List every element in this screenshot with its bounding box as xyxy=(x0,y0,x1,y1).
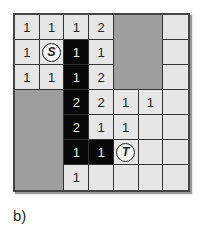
grid-cell xyxy=(89,165,114,190)
grid-cell: 1 xyxy=(64,165,89,190)
grid-cell: 1 xyxy=(114,115,139,140)
grid-cell: 2 xyxy=(89,15,114,40)
grid-cell xyxy=(139,140,164,165)
grid-cell xyxy=(114,165,139,190)
target-marker-icon: T xyxy=(116,143,135,162)
path-cell: 2 xyxy=(64,115,89,140)
grid-cell: 1 xyxy=(40,15,65,40)
grid-cell xyxy=(163,140,188,165)
grid-cell: 2 xyxy=(89,90,114,115)
grid-cell xyxy=(139,165,164,190)
obstacle-block xyxy=(114,15,163,90)
grid-cell: 1 xyxy=(15,15,40,40)
grid-map: 11121S111112221121111T1 xyxy=(13,13,190,192)
grid-cell xyxy=(163,165,188,190)
obstacle-block xyxy=(15,90,64,190)
path-cell: 1 xyxy=(64,40,89,65)
grid-cell: 2 xyxy=(89,65,114,90)
target-cell: T xyxy=(114,140,139,165)
grid-cell xyxy=(163,15,188,40)
start-marker-icon: S xyxy=(42,43,61,62)
grid-cell: 1 xyxy=(139,90,164,115)
grid-cell: 1 xyxy=(15,40,40,65)
path-cell: 1 xyxy=(89,140,114,165)
path-cell: 1 xyxy=(64,140,89,165)
path-cell: 1 xyxy=(64,65,89,90)
grid-cell: 1 xyxy=(89,40,114,65)
grid-cell: 1 xyxy=(114,90,139,115)
grid-cell xyxy=(139,115,164,140)
grid-cell xyxy=(163,40,188,65)
grid-cell: 1 xyxy=(64,15,89,40)
path-cell: 2 xyxy=(64,90,89,115)
grid-cell: 1 xyxy=(40,65,65,90)
grid-cell xyxy=(163,65,188,90)
grid-cell: 1 xyxy=(89,115,114,140)
grid-cell: 1 xyxy=(15,65,40,90)
grid-cell xyxy=(163,90,188,115)
start-cell: S xyxy=(40,40,65,65)
figure-caption: b) xyxy=(13,207,26,224)
grid-cell xyxy=(163,115,188,140)
